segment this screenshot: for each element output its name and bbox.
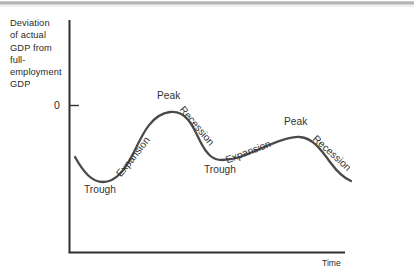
figure-canvas: Deviation of actual GDP from full- emplo… bbox=[0, 0, 414, 280]
y-axis-title-line-4: full- bbox=[10, 54, 68, 66]
curve-label-trough-2: Trough bbox=[204, 164, 236, 175]
x-axis-title: Time bbox=[322, 258, 341, 268]
y-axis-title-line-3: GDP from bbox=[10, 42, 68, 54]
curve-label-trough-1: Trough bbox=[84, 184, 116, 195]
y-axis-zero-label: 0 bbox=[54, 99, 60, 111]
curve-label-peak-1: Peak bbox=[157, 90, 180, 101]
y-axis-title-line-6: GDP bbox=[10, 78, 68, 90]
curve-label-peak-2: Peak bbox=[284, 116, 307, 127]
y-axis-title: Deviation of actual GDP from full- emplo… bbox=[10, 17, 68, 91]
y-axis-title-line-2: of actual bbox=[10, 29, 68, 41]
y-axis-title-line-1: Deviation bbox=[10, 17, 68, 29]
y-axis-title-line-5: employment bbox=[10, 66, 68, 78]
